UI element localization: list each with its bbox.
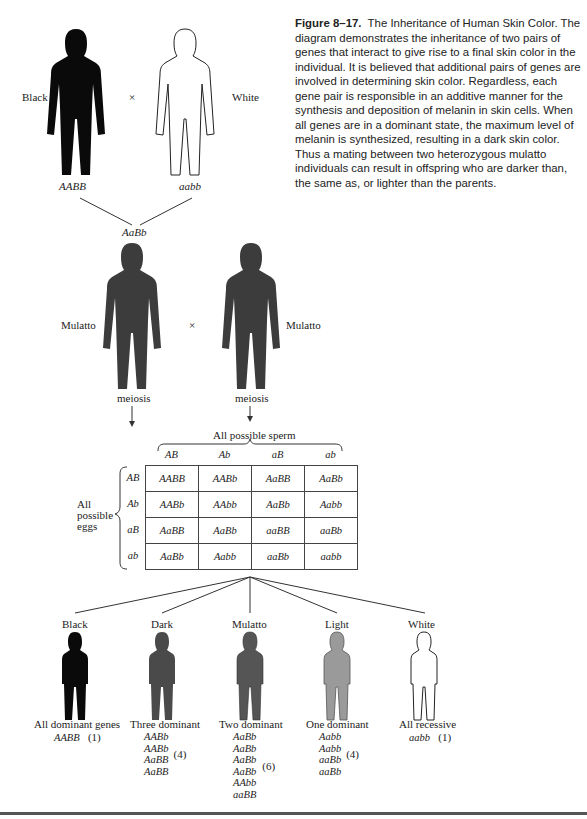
offspring-desc: Three dominant	[130, 718, 200, 730]
offspring-white-figure	[411, 632, 437, 720]
offspring-desc: All recessive	[399, 718, 456, 730]
offspring-group-black: All dominant genes AABB (1)	[34, 718, 120, 744]
offspring-count: (4)	[174, 748, 187, 760]
sperm-col-header: ab	[304, 449, 357, 460]
offspring-light-figure	[324, 632, 350, 720]
offspring-desc: Two dominant	[219, 718, 283, 730]
f1-cross-symbol: ×	[189, 319, 195, 331]
punnett-cell: aaBB	[252, 518, 305, 544]
punnett-cell: AABB	[146, 466, 199, 492]
offspring-group-mulatto: Two dominant AaBb AaBb AaBb AaBb AAbb aa…	[219, 718, 283, 800]
offspring-dark-figure	[149, 632, 175, 720]
offspring-mulatto-figure	[237, 632, 263, 720]
punnett-cell: aabb	[305, 544, 358, 570]
diagram-graphics	[0, 0, 587, 819]
punnett-cell: AAbb	[199, 492, 252, 518]
sperm-label: All possible sperm	[213, 429, 296, 441]
punnett-row: AaBB AaBb aaBB aaBb	[146, 518, 358, 544]
offspring-white-label: White	[408, 618, 435, 630]
punnett-row: AABb AAbb AaBb Aabb	[146, 492, 358, 518]
offspring-mulatto-label: Mulatto	[232, 618, 267, 630]
parent-black-genotype: AABB	[59, 180, 86, 192]
punnett-cell: AABb	[199, 466, 252, 492]
punnett-cell: aaBb	[252, 544, 305, 570]
offspring-group-dark: Three dominant AABb AABb AaBB AaBB (4)	[130, 718, 200, 777]
egg-row-header: Ab	[124, 498, 142, 509]
bottom-rule	[0, 812, 587, 815]
offspring-light-label: Light	[325, 618, 349, 630]
parent-black-label: Black	[22, 91, 48, 103]
punnett-cell: AaBB	[252, 466, 305, 492]
punnett-cell: AaBb	[305, 466, 358, 492]
punnett-cell: AaBb	[146, 544, 199, 570]
punnett-cell: aaBb	[305, 518, 358, 544]
punnett-square: AABB AABb AaBB AaBb AABb AAbb AaBb Aabb …	[145, 465, 358, 570]
mulatto-left-figure	[103, 243, 161, 389]
f1-genotype: AaBb	[122, 226, 146, 238]
cross-symbol: ×	[129, 91, 135, 103]
parent-white-genotype: aabb	[179, 180, 201, 192]
punnett-cell: AaBb	[199, 518, 252, 544]
f1-right-label: Mulatto	[286, 319, 321, 331]
punnett-cell: AaBb	[252, 492, 305, 518]
egg-row-header: aB	[124, 524, 142, 535]
parent-white-label: White	[232, 91, 259, 103]
egg-row-header: ab	[124, 550, 142, 561]
sperm-col-header: AB	[145, 449, 198, 460]
punnett-cell: Aabb	[199, 544, 252, 570]
offspring-count: (1)	[438, 731, 451, 743]
punnett-cell: Aabb	[305, 492, 358, 518]
punnett-cell: AaBB	[146, 518, 199, 544]
eggs-label: All possible eggs	[77, 499, 113, 532]
punnett-row: AaBb Aabb aaBb aabb	[146, 544, 358, 570]
offspring-count: (6)	[262, 760, 275, 772]
offspring-black-label: Black	[62, 618, 88, 630]
offspring-count: (1)	[88, 731, 101, 743]
offspring-black-figure	[62, 632, 88, 720]
sperm-col-header: Ab	[198, 449, 251, 460]
meiosis-left-label: meiosis	[117, 392, 151, 404]
offspring-desc: All dominant genes	[34, 718, 120, 730]
offspring-desc: One dominant	[306, 718, 369, 730]
offspring-count: (4)	[346, 748, 359, 760]
f1-left-label: Mulatto	[61, 319, 96, 331]
offspring-group-white: All recessive aabb (1)	[399, 718, 456, 744]
white-parent-figure	[156, 29, 214, 175]
offspring-dark-label: Dark	[151, 618, 173, 630]
sperm-col-header: aB	[251, 449, 304, 460]
egg-row-header: AB	[124, 472, 142, 483]
mulatto-right-figure	[222, 243, 280, 389]
punnett-cell: AABb	[146, 492, 199, 518]
offspring-group-light: One dominant Aabb Aabb aaBb aaBb (4)	[306, 718, 369, 777]
meiosis-right-label: meiosis	[235, 392, 269, 404]
punnett-row: AABB AABb AaBB AaBb	[146, 466, 358, 492]
black-parent-figure	[47, 29, 105, 175]
